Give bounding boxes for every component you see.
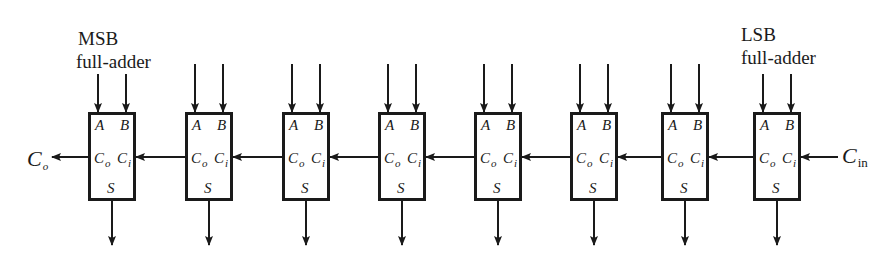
pin-ci-sub: i [418,157,421,169]
pin-co-sub: o [202,157,208,169]
pin-co-sub: o [587,157,593,169]
pin-a: A [668,118,677,133]
pin-co: Co [288,151,305,169]
pin-ci-sub: i [610,157,613,169]
pin-ci-sub: i [793,157,796,169]
pin-ci: Ci [407,151,421,169]
pin-ci-main: C [503,150,513,166]
lsb-label: LSB [741,25,776,44]
pin-co-main: C [384,150,394,166]
full-adder-bit-2: ABCoCiS [282,112,330,201]
msb-text: MSB [78,28,118,49]
pin-co-main: C [191,150,201,166]
pin-ci: Ci [311,151,325,169]
pin-co-main: C [759,150,769,166]
pin-b: B [314,118,323,133]
full-adder-msb-0: ABCoCiS [88,112,136,201]
pin-s: S [204,181,212,196]
full-adder-bit-5: ABCoCiS [570,112,618,201]
pin-co: Co [667,151,684,169]
pin-ci-main: C [214,150,224,166]
pin-ci-sub: i [128,157,131,169]
pin-co-sub: o [105,157,111,169]
pin-a: A [385,118,394,133]
full-adder-bit-6: ABCoCiS [661,112,709,201]
carry-in-sub: in [858,155,868,170]
pin-co: Co [480,151,497,169]
pin-co-main: C [480,150,490,166]
msb-fulladder-label: full-adder [76,52,151,71]
pin-s: S [301,181,309,196]
pin-b: B [120,118,129,133]
full-adder-lsb-7: ABCoCiS [753,112,801,201]
full-adder-bit-3: ABCoCiS [378,112,426,201]
pin-a: A [289,118,298,133]
carry-out-label: Co [27,148,48,172]
pin-b: B [217,118,226,133]
pin-ci-main: C [311,150,321,166]
pin-co: Co [759,151,776,169]
pin-ci-main: C [690,150,700,166]
pin-ci-sub: i [225,157,228,169]
pin-ci-main: C [782,150,792,166]
pin-co-main: C [288,150,298,166]
pin-co: Co [576,151,593,169]
pin-co: Co [384,151,401,169]
pin-s: S [772,181,780,196]
carry-in-main: C [842,143,857,168]
pin-ci: Ci [782,151,796,169]
lsb-fulladder-text: full-adder [741,47,816,68]
pin-ci-sub: i [701,157,704,169]
full-adder-bit-4: ABCoCiS [474,112,522,201]
pin-co-main: C [576,150,586,166]
pin-ci-main: C [407,150,417,166]
pin-ci: Ci [117,151,131,169]
pin-a: A [192,118,201,133]
msb-fulladder-text: full-adder [76,51,151,72]
pin-co-sub: o [299,157,305,169]
pin-ci-sub: i [322,157,325,169]
pin-ci: Ci [503,151,517,169]
pin-ci: Ci [214,151,228,169]
pin-a: A [760,118,769,133]
full-adder-bit-1: ABCoCiS [185,112,233,201]
pin-s: S [397,181,405,196]
pin-co-sub: o [770,157,776,169]
pin-s: S [680,181,688,196]
pin-co-sub: o [678,157,684,169]
pin-ci-sub: i [514,157,517,169]
pin-a: A [577,118,586,133]
pin-b: B [410,118,419,133]
pin-ci-main: C [599,150,609,166]
pin-b: B [506,118,515,133]
msb-label: MSB [78,29,118,48]
pin-a: A [95,118,104,133]
pin-co-main: C [94,150,104,166]
pin-co-sub: o [491,157,497,169]
pin-b: B [693,118,702,133]
lsb-fulladder-label: full-adder [741,48,816,67]
pin-b: B [785,118,794,133]
pin-co-sub: o [395,157,401,169]
carry-out-sub: o [43,160,49,172]
carry-in-label: Cin [842,145,868,169]
pin-ci: Ci [599,151,613,169]
pin-co: Co [191,151,208,169]
lsb-text: LSB [741,24,776,45]
carry-out-main: C [27,146,42,171]
pin-co-main: C [667,150,677,166]
pin-s: S [107,181,115,196]
pin-ci-main: C [117,150,127,166]
pin-s: S [589,181,597,196]
pin-a: A [481,118,490,133]
pin-co: Co [94,151,111,169]
pin-b: B [602,118,611,133]
pin-s: S [493,181,501,196]
pin-ci: Ci [690,151,704,169]
